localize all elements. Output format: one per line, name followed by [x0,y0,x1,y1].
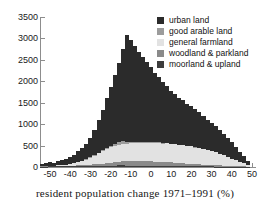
y-axis-tick-label: 500 [23,142,38,151]
legend-item-label: good arable land [169,27,232,36]
y-axis-tick [41,167,45,168]
y-axis-tick-label: 3000 [18,34,38,43]
legend-swatch-icon [157,61,164,68]
legend-item-label: moorland & upland [169,60,240,69]
x-axis-caption: resident population change 1971–1991 (%) [0,187,270,199]
y-axis-tick-label: 1000 [18,120,38,129]
legend-swatch-icon [157,50,164,57]
histogram-bar [246,161,250,167]
legend-swatch-icon [157,39,164,46]
y-axis-tick-label: 1500 [18,99,38,108]
legend-item: good arable land [157,26,248,36]
legend-item: urban land [157,15,248,25]
legend-item-label: urban land [169,16,209,25]
legend-item-label: general farmland [169,38,233,47]
legend-swatch-icon [157,17,164,24]
legend-swatch-icon [157,28,164,35]
x-axis-line [40,167,256,168]
y-axis-tick-label: 3500 [18,13,38,22]
histogram-figure: 0500100015002000250030003500 -50-40-30-2… [0,0,270,211]
legend-item: moorland & upland [157,59,248,69]
legend-item-label: woodland & parkland [169,49,248,58]
legend-item: general farmland [157,37,248,47]
x-axis-tick-label: 50 [238,170,266,179]
legend: urban landgood arable landgeneral farmla… [157,15,248,70]
y-axis-tick-label: 2000 [18,77,38,86]
legend-item: woodland & parkland [157,48,248,58]
y-axis-tick-label: 2500 [18,56,38,65]
